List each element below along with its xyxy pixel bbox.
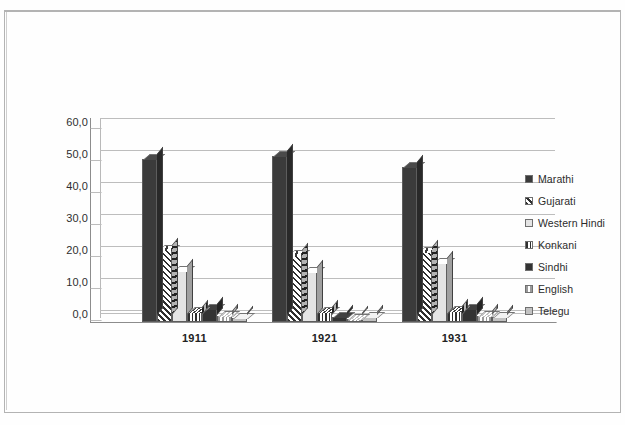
plot-area: 191119211931 — [90, 110, 560, 350]
y-axis-tick-label: 40,0 — [44, 180, 88, 192]
y-axis-tick-label: 50,0 — [44, 148, 88, 160]
legend-item-konkani[interactable]: Konkani — [525, 234, 620, 256]
bar-group-1911 — [142, 118, 247, 322]
legend-item-telegu[interactable]: Telegu — [525, 300, 620, 322]
legend-swatch-icon — [525, 175, 533, 183]
bar-english-1921[interactable] — [347, 319, 362, 322]
y-axis-tick-label: 10,0 — [44, 276, 88, 288]
bar-group-1931 — [402, 118, 507, 322]
chart-legend: MarathiGujaratiWestern HindiKonkaniSindh… — [525, 168, 620, 322]
legend-swatch-icon — [525, 263, 533, 271]
y-axis: 60,050,040,030,020,010,00,0 — [40, 110, 88, 350]
bar-marathi-1911[interactable] — [142, 159, 157, 322]
scanned-page: 60,050,040,030,020,010,00,0 191119211931… — [0, 0, 625, 425]
legend-label: Western Hindi — [538, 217, 605, 229]
legend-item-sindhi[interactable]: Sindhi — [525, 256, 620, 278]
legend-label: Telegu — [538, 305, 570, 317]
legend-item-marathi[interactable]: Marathi — [525, 168, 620, 190]
legend-label: Marathi — [538, 173, 574, 185]
legend-item-english[interactable]: English — [525, 278, 620, 300]
legend-label: Gujarati — [538, 195, 576, 207]
bar-chart: 60,050,040,030,020,010,00,0 191119211931 — [40, 110, 600, 350]
y-axis-tick-label: 30,0 — [44, 212, 88, 224]
floor-front-edge — [90, 322, 546, 323]
legend-label: English — [538, 283, 573, 295]
bar-marathi-1931[interactable] — [402, 167, 417, 322]
y-axis-tick-label: 20,0 — [44, 244, 88, 256]
bar-konkani-1921[interactable] — [317, 312, 332, 322]
legend-swatch-icon — [525, 307, 533, 315]
legend-swatch-icon — [525, 285, 533, 293]
bar-marathi-1921[interactable] — [272, 156, 287, 322]
legend-swatch-icon — [525, 219, 533, 227]
bar-sindhi-1921[interactable] — [332, 317, 347, 322]
y-axis-tick-label: 0,0 — [44, 308, 88, 320]
legend-label: Sindhi — [538, 261, 568, 273]
legend-label: Konkani — [538, 239, 577, 251]
bar-telegu-1931[interactable] — [492, 317, 507, 322]
x-axis-label-1931: 1931 — [415, 332, 495, 344]
x-axis-label-1921: 1921 — [285, 332, 365, 344]
bar-konkani-1911[interactable] — [187, 312, 202, 322]
legend-item-gujarati[interactable]: Gujarati — [525, 190, 620, 212]
legend-item-western-hindi[interactable]: Western Hindi — [525, 212, 620, 234]
legend-swatch-icon — [525, 241, 533, 249]
legend-swatch-icon — [525, 197, 533, 205]
bar-english-1911[interactable] — [217, 316, 232, 322]
y-axis-tick-label: 60,0 — [44, 116, 88, 128]
y-axis-line — [90, 118, 91, 322]
x-axis-label-1911: 1911 — [155, 332, 235, 344]
bar-group-1921 — [272, 118, 377, 322]
bar-telegu-1911[interactable] — [232, 318, 247, 322]
bar-english-1931[interactable] — [477, 316, 492, 322]
